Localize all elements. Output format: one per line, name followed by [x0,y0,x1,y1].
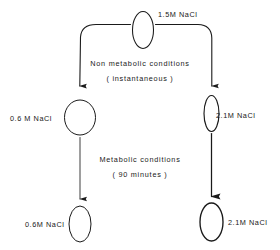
label-top-cell-concentration: 1.5M NaCl [158,11,197,18]
label-bottom-right-concentration: 2.1M NaCl [228,219,267,226]
diagram-canvas [0,0,280,250]
label-mid-right-concentration: 2.1M NaCl [216,112,255,119]
transition-label-non-metabolic-line2: ( instantaneous ) [0,75,280,82]
cell-bottom-left-0-6m [69,206,91,242]
label-bottom-left-concentration: 0.6M NaCl [25,221,64,228]
cell-mid-left-0-6m [65,100,96,135]
cell-top-1-5m [133,12,154,49]
transition-label-non-metabolic-line1: Non metabolic conditions [0,60,280,67]
flow-diagram: 1.5M NaCl 0.6 M NaCl 2.1M NaCl 0.6M NaCl… [0,0,280,250]
transition-label-metabolic-line1: Metabolic conditions [0,156,280,163]
transition-label-metabolic-line2: ( 90 minutes ) [0,171,280,178]
cell-bottom-right-2-1m [200,203,223,241]
label-mid-left-concentration: 0.6 M NaCl [10,115,52,122]
